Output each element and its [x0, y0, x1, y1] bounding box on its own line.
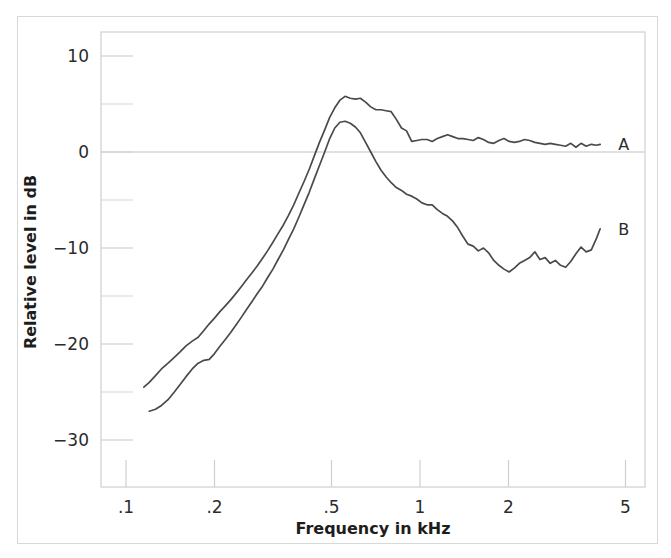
y-axis-tick-labels: 100−10−20−30 [53, 46, 89, 450]
series-label-B: B [618, 220, 629, 239]
x-tick-label: .2 [206, 497, 222, 517]
y-tick-label: −20 [53, 334, 89, 354]
plot-frame [101, 32, 645, 487]
y-tick-label: 0 [78, 142, 89, 162]
y-tick-label: 10 [67, 46, 89, 66]
y-tick-label: −10 [53, 238, 89, 258]
y-axis-title: Relative level in dB [21, 175, 40, 349]
series-label-A: A [618, 135, 629, 154]
chart-plot: 100−10−20−30 .1.2.5125 AB Frequency in k… [0, 0, 671, 558]
x-tick-label: 5 [620, 497, 631, 517]
x-axis-tick-labels: .1.2.5125 [118, 497, 631, 517]
plot-frame-group [101, 32, 645, 487]
x-tick-label: .1 [118, 497, 134, 517]
x-tick-label: 2 [503, 497, 514, 517]
y-tick-label: −30 [53, 430, 89, 450]
x-axis-title: Frequency in kHz [295, 519, 450, 538]
x-tick-label: .5 [323, 497, 339, 517]
x-tick-label: 1 [415, 497, 426, 517]
figure-container: 100−10−20−30 .1.2.5125 AB Frequency in k… [0, 0, 671, 558]
